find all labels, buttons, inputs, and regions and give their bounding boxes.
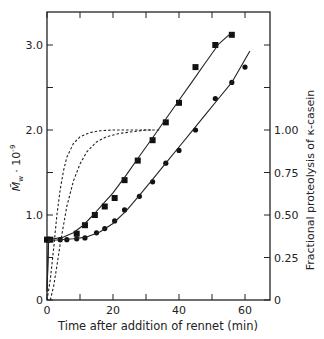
y-axis-label: M̄w · 10-9 — [9, 145, 25, 192]
plot-frame — [47, 12, 270, 300]
y-tick-label: 0 — [36, 294, 43, 307]
x-tick-label: 60 — [238, 304, 252, 317]
y-right-tick-label: 0.75 — [274, 167, 299, 180]
square-data-point — [193, 64, 199, 70]
plot-axes: 020406001.02.03.000.250.500.751.00 — [26, 12, 299, 317]
axis-labels: Time after addition of rennet (min) M̄w … — [9, 90, 317, 333]
x-axis-label: Time after addition of rennet (min) — [57, 319, 258, 333]
y-tick-label: 1.0 — [26, 209, 44, 222]
proteolysis-slow-line — [50, 130, 159, 300]
y-right-tick-label: 1.00 — [274, 124, 299, 137]
y-tick-label: 3.0 — [26, 39, 44, 52]
y-tick-label: 2.0 — [26, 124, 44, 137]
chart-figure: 020406001.02.03.000.250.500.751.00 Time … — [0, 0, 324, 339]
proteolysis-fast-line — [47, 130, 153, 300]
x-tick-label: 0 — [44, 304, 51, 317]
circle-data-point — [242, 65, 247, 70]
y-right-axis-label: Fractional proteolysis of κ-casein — [304, 90, 317, 270]
plot-series — [44, 32, 250, 300]
circle-data-point — [112, 218, 117, 223]
y-right-tick-label: 0.25 — [274, 252, 299, 265]
y-right-tick-label: 0 — [274, 294, 281, 307]
x-tick-label: 20 — [106, 304, 120, 317]
square-data-point — [112, 195, 118, 201]
x-tick-label: 40 — [172, 304, 186, 317]
y-right-tick-label: 0.50 — [274, 209, 299, 222]
